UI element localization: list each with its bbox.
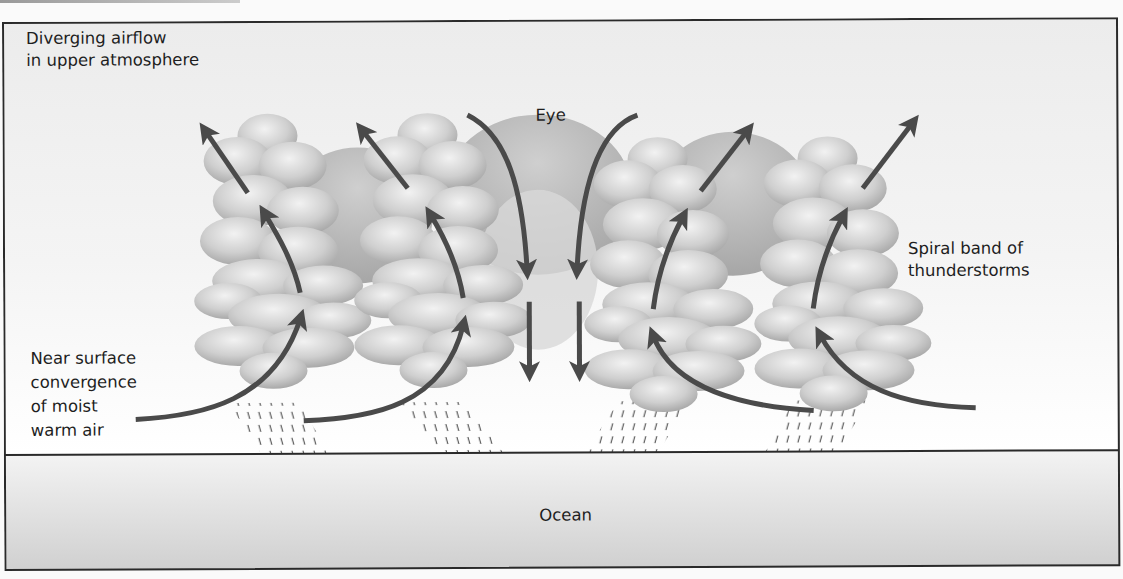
page-edge-strip: [0, 0, 240, 3]
label-surface-convergence: Near surface convergence of moist warm a…: [30, 346, 137, 442]
label-spiral-band: Spiral band of thunderstorms: [908, 238, 1030, 283]
hurricane-diagram: Diverging airflow in upper atmosphere Ey…: [2, 17, 1121, 572]
label-eye: Eye: [535, 105, 565, 127]
diagram-canvas: [2, 17, 1121, 572]
label-ocean: Ocean: [539, 504, 592, 526]
label-diverging-airflow: Diverging airflow in upper atmosphere: [26, 27, 199, 72]
